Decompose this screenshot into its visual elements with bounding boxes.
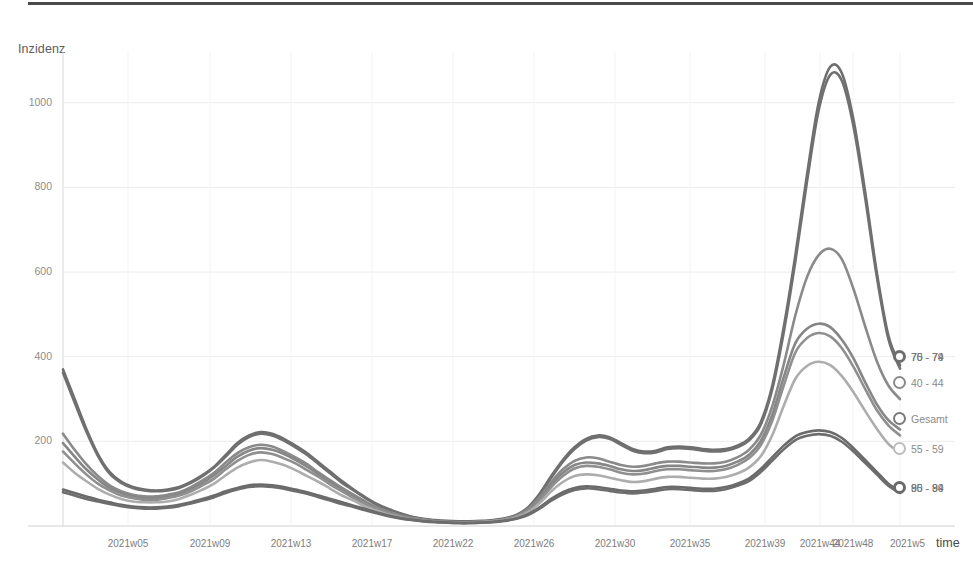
x-tick-label: 2021w17 (335, 538, 409, 549)
x-tick-label: 2021w26 (497, 538, 571, 549)
x-tick-label: 2021w30 (578, 538, 652, 549)
x-tick-label: 2021w5 (890, 538, 936, 549)
series-line[interactable] (63, 434, 900, 523)
legend-marker-dot (893, 481, 906, 494)
y-tick-label: 1000 (8, 96, 52, 108)
y-tick-label: 400 (8, 350, 52, 362)
x-tick-label: 2021w13 (254, 538, 328, 549)
x-tick-label: 2021w22 (416, 538, 490, 549)
legend-marker-dot (893, 376, 906, 389)
x-tick-label: 2021w48 (816, 538, 890, 549)
legend-marker-dot (893, 442, 906, 455)
legend-marker-dot (893, 412, 906, 425)
legend-label-overlapping: 85 - 89 (911, 481, 944, 495)
incidence-line-chart: Inzidenz time 2004006008001000 2021w0520… (0, 0, 973, 578)
x-tick-label: 2021w09 (173, 538, 247, 549)
x-tick-label: 2021w05 (91, 538, 165, 549)
y-tick-label: 200 (8, 434, 52, 446)
series-lines (63, 64, 900, 523)
legend-label: Gesamt (911, 412, 948, 426)
plot-area (0, 0, 973, 578)
x-tick-label: 2021w35 (653, 538, 727, 549)
legend-label: 55 - 59 (911, 442, 944, 456)
series-line[interactable] (63, 430, 900, 523)
legend-label-overlapping: 75 - 79 (911, 350, 944, 364)
legend-marker-dot (893, 350, 906, 363)
legend-label: 40 - 44 (911, 376, 944, 390)
gridlines (63, 52, 955, 526)
y-tick-label: 600 (8, 265, 52, 277)
series-line[interactable] (63, 362, 900, 523)
series-line[interactable] (63, 64, 900, 521)
y-tick-label: 800 (8, 180, 52, 192)
